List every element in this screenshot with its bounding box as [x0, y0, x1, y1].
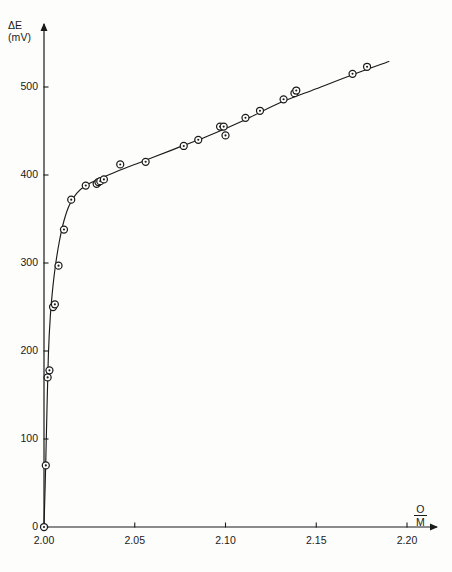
data-point-center-dot: [43, 526, 45, 528]
fit-curve: [44, 61, 389, 527]
data-point-center-dot: [45, 464, 47, 466]
data-point-center-dot: [54, 303, 56, 305]
data-point-center-dot: [366, 66, 368, 68]
x-axis-title-numerator: O: [414, 503, 427, 516]
x-tick-label: 2.15: [296, 534, 336, 546]
x-axis-title: O M: [414, 503, 427, 529]
data-point: [44, 374, 51, 381]
x-tick-label: 2.10: [206, 534, 246, 546]
x-tick-label: 2.05: [115, 534, 155, 546]
data-point: [68, 196, 75, 203]
data-point-center-dot: [283, 98, 285, 100]
data-point: [195, 136, 202, 143]
data-point-center-dot: [197, 139, 199, 141]
data-point-center-dot: [48, 369, 50, 371]
y-axis-title-unit: (mV): [8, 32, 31, 44]
x-tick-label: 2.20: [387, 534, 427, 546]
data-point: [349, 70, 356, 77]
data-point: [142, 158, 149, 165]
data-point-center-dot: [119, 163, 121, 165]
data-point: [82, 182, 89, 189]
data-point-center-dot: [85, 185, 87, 187]
data-point-center-dot: [103, 178, 105, 180]
data-point: [55, 262, 62, 269]
data-point-center-dot: [183, 145, 185, 147]
y-axis-title: ΔE (mV): [8, 20, 31, 43]
data-point: [117, 161, 124, 168]
data-point-center-dot: [63, 229, 65, 231]
y-tick-label: 300: [8, 256, 38, 268]
data-point: [256, 107, 263, 114]
data-point: [364, 63, 371, 70]
y-tick-label: 500: [8, 80, 38, 92]
y-tick-label: 200: [8, 344, 38, 356]
data-point: [293, 87, 300, 94]
x-tick-label: 2.00: [24, 534, 64, 546]
data-point: [222, 132, 229, 139]
data-point-center-dot: [352, 73, 354, 75]
y-tick-label: 400: [8, 168, 38, 180]
y-tick-label: 0: [8, 520, 38, 532]
data-point-center-dot: [295, 89, 297, 91]
chart-figure: ΔE (mV) O M 01002003004005002.002.052.10…: [0, 0, 452, 572]
y-tick-label: 100: [8, 432, 38, 444]
plot-canvas: [0, 0, 452, 572]
data-point-center-dot: [57, 265, 59, 267]
y-axis-title-symbol: ΔE: [8, 20, 31, 32]
data-point-center-dot: [259, 110, 261, 112]
data-point: [100, 176, 107, 183]
data-point: [60, 226, 67, 233]
data-point: [220, 123, 227, 130]
data-point-center-dot: [145, 161, 147, 163]
data-point: [41, 524, 48, 531]
data-point-center-dot: [70, 199, 72, 201]
data-point: [280, 96, 287, 103]
data-point-center-dot: [223, 126, 225, 128]
data-point: [51, 301, 58, 308]
data-point: [46, 367, 53, 374]
data-point-center-dot: [244, 117, 246, 119]
data-point-series: [41, 63, 371, 530]
x-axis-title-denominator: M: [414, 516, 427, 529]
data-point: [42, 462, 49, 469]
data-point: [242, 114, 249, 121]
data-point: [180, 142, 187, 149]
data-point-center-dot: [224, 134, 226, 136]
data-point-center-dot: [47, 376, 49, 378]
